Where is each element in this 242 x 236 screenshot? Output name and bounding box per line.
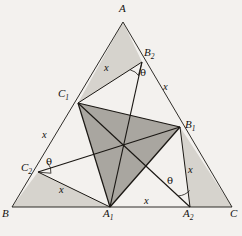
vertex-sub-B2: 2 xyxy=(151,52,155,61)
angle-arc-b2 xyxy=(130,70,139,76)
vertex-sub-A2: 2 xyxy=(190,213,194,222)
region-A-C1-B2 xyxy=(78,22,142,103)
geometry-figure: A B C A1 A2 B1 B2 C1 C2 x x x x x x θ θ … xyxy=(0,0,242,236)
angle-label-theta-a2: θ xyxy=(167,176,173,186)
length-label-x-a1a2: x xyxy=(144,196,149,207)
length-label-x-c2a1: x xyxy=(59,185,64,196)
length-label-x-b1a2: x xyxy=(188,165,193,176)
geometry-canvas xyxy=(0,0,242,236)
line-A-C xyxy=(123,22,232,207)
vertex-label-A2: A2 xyxy=(183,208,193,222)
angle-label-theta-c2: θ xyxy=(46,157,52,167)
vertex-sub-B1: 1 xyxy=(192,124,196,133)
vertex-label-C2: C2 xyxy=(21,162,32,176)
vertex-label-A1: A1 xyxy=(103,208,113,222)
length-label-x-b2b1: x xyxy=(163,82,168,93)
vertex-sub-A1: 1 xyxy=(110,213,114,222)
vertex-sub-C2: 2 xyxy=(28,167,32,176)
vertex-label-C: C xyxy=(230,208,237,219)
vertex-label-A: A xyxy=(119,3,126,14)
length-label-x-c1b2: x xyxy=(104,63,109,74)
vertex-label-B1: B1 xyxy=(185,119,195,133)
vertex-label-B2: B2 xyxy=(144,47,154,61)
length-label-x-bc1: x xyxy=(42,130,47,141)
angle-label-theta-b2: θ xyxy=(140,68,146,78)
vertex-label-C1: C1 xyxy=(58,88,69,102)
vertex-sub-C1: 1 xyxy=(65,93,69,102)
vertex-label-B: B xyxy=(2,208,9,219)
